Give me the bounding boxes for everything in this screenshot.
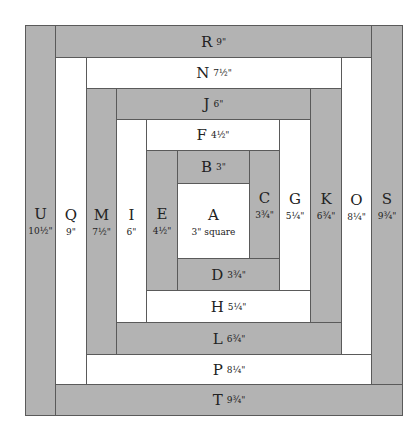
piece-g: G5¼" (279, 119, 311, 291)
piece-letter: D (211, 266, 223, 284)
piece-size: 4½" (153, 226, 172, 236)
piece-letter: B (201, 158, 212, 176)
piece-s: S9¾" (371, 25, 403, 385)
piece-e: E4½" (146, 150, 178, 291)
piece-size: 5¼" (286, 211, 305, 221)
piece-size: 6¾" (227, 334, 246, 344)
piece-size: 7½" (213, 68, 232, 78)
piece-letter: E (157, 205, 168, 223)
piece-size: 6" (214, 99, 224, 109)
piece-letter: Q (65, 206, 77, 224)
piece-size: 9" (216, 37, 226, 47)
piece-letter: N (196, 64, 209, 82)
piece-o: O8¼" (341, 57, 372, 355)
piece-t: T9¾" (55, 384, 403, 416)
piece-letter: M (94, 206, 109, 224)
piece-f: F4½" (146, 119, 280, 151)
piece-letter: U (34, 205, 47, 223)
piece-h: H5¼" (146, 290, 311, 323)
piece-a-center-square: A3" square (177, 183, 250, 259)
piece-i: I6" (116, 119, 147, 323)
piece-size: 3¾" (255, 210, 274, 220)
piece-size: 7½" (92, 227, 111, 237)
piece-letter: C (259, 189, 270, 207)
piece-letter: I (129, 206, 135, 224)
piece-size: 6" (127, 227, 137, 237)
piece-c: C3¾" (249, 150, 280, 259)
piece-b: B3" (177, 150, 250, 184)
piece-size: 4½" (211, 130, 230, 140)
piece-d: D3¾" (177, 258, 280, 291)
piece-letter: L (213, 330, 223, 348)
piece-letter: P (213, 361, 223, 379)
piece-n: N7½" (86, 57, 342, 89)
piece-letter: A (208, 206, 219, 224)
piece-size: 5¼" (228, 302, 247, 312)
piece-letter: T (213, 391, 223, 409)
piece-size: 10½" (28, 226, 52, 236)
piece-size: 9" (66, 227, 76, 237)
piece-j: J6" (116, 88, 311, 120)
piece-size: 3¾" (227, 270, 246, 280)
piece-u: U10½" (25, 25, 56, 416)
piece-size: 9¾" (227, 395, 246, 405)
piece-letter: F (196, 126, 206, 144)
piece-q: Q9" (55, 57, 87, 385)
piece-size: 8¼" (347, 212, 366, 222)
piece-size: 3" (216, 162, 226, 172)
piece-letter: R (201, 33, 212, 51)
piece-l: L6¾" (116, 322, 342, 355)
piece-m: M7½" (86, 88, 117, 355)
piece-letter: O (350, 191, 362, 209)
piece-letter: H (211, 298, 224, 316)
piece-size: 9¾" (378, 211, 397, 221)
piece-letter: G (289, 190, 301, 208)
piece-r: R9" (55, 25, 372, 58)
piece-k: K6¾" (310, 88, 342, 323)
piece-letter: J (204, 95, 210, 113)
piece-letter: K (320, 190, 331, 208)
piece-size: 8¼" (227, 365, 246, 375)
piece-letter: S (382, 190, 392, 208)
piece-size: 3" square (192, 227, 236, 237)
piece-size: 6¾" (317, 211, 336, 221)
piece-p: P8¼" (86, 354, 372, 385)
